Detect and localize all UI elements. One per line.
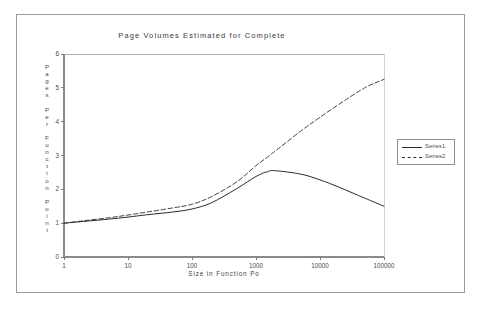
legend-swatch-solid-icon <box>402 147 422 148</box>
y-tick-label: 6 <box>45 50 59 57</box>
x-tick-label: 1000 <box>236 262 276 269</box>
y-tick-label: 1 <box>45 219 59 226</box>
series-line-series2 <box>64 79 384 223</box>
chart-figure: Page Volumes Estimated for Complete Page… <box>16 14 465 293</box>
x-tick-label: 10 <box>108 262 148 269</box>
axes <box>61 54 384 260</box>
y-tick-label: 4 <box>45 118 59 125</box>
series-line-series1 <box>64 171 384 224</box>
chart-legend: Series1 Series2 <box>397 139 455 165</box>
x-tick-label: 100 <box>172 262 212 269</box>
legend-item: Series2 <box>402 153 454 163</box>
legend-label: Series2 <box>425 153 445 159</box>
series-lines <box>64 79 384 223</box>
legend-item: Series1 <box>402 143 454 153</box>
y-tick-label: 0 <box>45 253 59 260</box>
x-tick-label: 1 <box>44 262 84 269</box>
y-tick-label: 5 <box>45 84 59 91</box>
x-tick-label: 10000 <box>300 262 340 269</box>
y-tick-label: 2 <box>45 185 59 192</box>
legend-label: Series1 <box>425 143 445 149</box>
legend-swatch-dashed-icon <box>402 157 422 158</box>
x-tick-label: 100000 <box>364 262 404 269</box>
y-tick-label: 3 <box>45 152 59 159</box>
